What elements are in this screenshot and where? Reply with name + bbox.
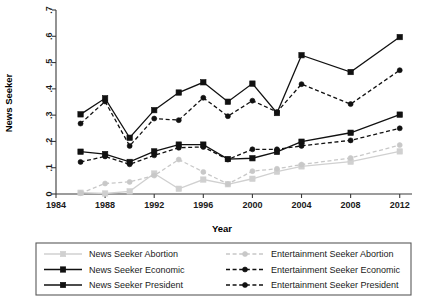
data-point <box>243 283 248 288</box>
data-point <box>274 166 279 171</box>
data-point <box>250 147 255 152</box>
x-tick-label: 1988 <box>95 200 115 210</box>
data-point <box>250 169 255 174</box>
data-point <box>274 109 279 114</box>
data-point <box>176 118 181 123</box>
y-tick-label: .4 <box>44 85 54 93</box>
data-point <box>299 53 304 58</box>
data-point <box>78 191 83 196</box>
chart-figure: 0.1.2.3.4.5.6.7 198419881992199620002004… <box>0 0 421 302</box>
data-point <box>127 179 132 184</box>
data-point <box>78 112 83 117</box>
data-point <box>176 145 181 150</box>
data-point <box>78 159 83 164</box>
legend-label: Entertainment Seeker Abortion <box>271 249 394 259</box>
x-tick-label: 2012 <box>390 200 410 210</box>
legend-label: News Seeker President <box>89 280 184 290</box>
data-point <box>225 114 230 119</box>
data-point <box>397 149 402 154</box>
legend-label: News Seeker Economic <box>89 265 185 275</box>
y-tick-label: .3 <box>44 111 54 119</box>
data-point <box>103 154 108 159</box>
y-axis-title: News Seeker <box>3 73 14 132</box>
data-point <box>201 144 206 149</box>
data-point <box>397 34 402 39</box>
data-point <box>78 121 83 126</box>
data-point <box>397 126 402 131</box>
x-tick-label: 1984 <box>46 200 66 210</box>
data-point <box>152 173 157 178</box>
data-point <box>78 149 83 154</box>
data-point <box>348 69 353 74</box>
data-point <box>250 176 255 181</box>
data-point <box>60 282 65 287</box>
data-point <box>60 267 65 272</box>
data-point <box>127 162 132 167</box>
data-point <box>225 99 230 104</box>
data-point <box>348 102 353 107</box>
data-point <box>225 182 230 187</box>
data-point <box>397 143 402 148</box>
data-point <box>243 252 248 257</box>
y-tick-label: .5 <box>44 59 54 67</box>
legend-label: News Seeker Abortion <box>89 249 178 259</box>
legend-label: Entertainment Seeker Economic <box>271 265 401 275</box>
data-point <box>201 177 206 182</box>
data-point <box>274 147 279 152</box>
x-tick-label: 1996 <box>193 200 213 210</box>
data-point <box>348 155 353 160</box>
x-tick-label: 2004 <box>292 200 312 210</box>
data-point <box>299 82 304 87</box>
data-point <box>176 90 181 95</box>
data-point <box>243 267 248 272</box>
y-tick-label: 0 <box>44 191 54 196</box>
data-point <box>250 81 255 86</box>
data-point <box>102 191 107 196</box>
data-point <box>201 95 206 100</box>
line-chart: 0.1.2.3.4.5.6.7 198419881992199620002004… <box>0 0 421 302</box>
data-point <box>152 153 157 158</box>
x-axis-title: Year <box>212 223 232 234</box>
data-point <box>299 143 304 148</box>
x-tick-label: 1992 <box>144 200 164 210</box>
data-point <box>127 189 132 194</box>
y-tick-label: .1 <box>44 164 54 172</box>
data-point <box>348 138 353 143</box>
data-point <box>201 169 206 174</box>
data-point <box>127 135 132 140</box>
data-point <box>152 116 157 121</box>
data-point <box>397 68 402 73</box>
data-point <box>176 157 181 162</box>
y-tick-label: .7 <box>44 6 54 14</box>
x-tick-label: 2000 <box>242 200 262 210</box>
data-point <box>103 181 108 186</box>
data-point <box>299 162 304 167</box>
data-point <box>152 107 157 112</box>
data-point <box>250 156 255 161</box>
data-point <box>225 157 230 162</box>
data-point <box>250 98 255 103</box>
data-point <box>60 251 65 256</box>
legend-label: Entertainment Seeker President <box>271 280 399 290</box>
data-point <box>176 186 181 191</box>
data-point <box>397 112 402 117</box>
data-point <box>201 80 206 85</box>
data-point <box>127 143 132 148</box>
x-tick-label: 2008 <box>341 200 361 210</box>
y-tick-label: .2 <box>44 138 54 146</box>
data-point <box>103 99 108 104</box>
y-tick-label: .6 <box>44 33 54 41</box>
data-point <box>348 130 353 135</box>
